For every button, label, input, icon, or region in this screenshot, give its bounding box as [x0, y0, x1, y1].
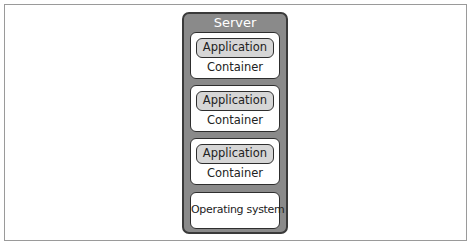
application-box-3: Application [196, 144, 274, 164]
server-box: Server Application Container Application… [182, 12, 288, 234]
operating-system-box: Operating system [190, 192, 280, 229]
application-box-2: Application [196, 91, 274, 111]
container-box-3: Application Container [190, 138, 280, 185]
application-box-1: Application [196, 38, 274, 58]
container-label-1: Container [191, 60, 279, 75]
server-title: Server [184, 15, 286, 31]
container-label-2: Container [191, 113, 279, 128]
container-label-3: Container [191, 166, 279, 181]
container-box-1: Application Container [190, 32, 280, 79]
container-box-2: Application Container [190, 85, 280, 132]
